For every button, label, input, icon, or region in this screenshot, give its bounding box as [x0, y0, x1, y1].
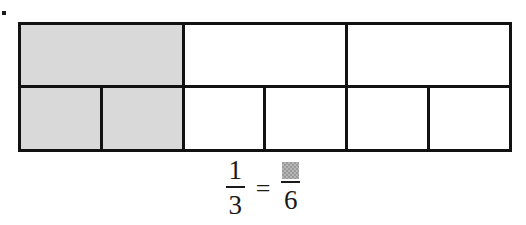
left-fraction-numerator: 1 [227, 156, 244, 185]
right-fraction-bar [281, 181, 300, 183]
fraction-equation: 1 3 = 6 [0, 156, 526, 222]
left-fraction-bar [226, 186, 245, 188]
worksheet-page: 1 3 = 6 [0, 0, 526, 225]
right-fraction: 6 [281, 162, 300, 214]
sixths-row [21, 88, 509, 149]
item-bullet-icon [2, 11, 6, 15]
answer-blank-box[interactable] [282, 162, 299, 179]
sixths-cell-4[interactable] [266, 88, 348, 149]
fraction-bar-model [18, 22, 512, 152]
sixths-cell-2[interactable] [103, 88, 185, 149]
thirds-row [21, 25, 509, 88]
thirds-cell-3[interactable] [348, 25, 509, 85]
equals-sign: = [256, 176, 271, 202]
right-fraction-denominator: 6 [282, 185, 299, 214]
sixths-cell-1[interactable] [21, 88, 103, 149]
left-fraction-denominator: 3 [227, 190, 244, 219]
sixths-cell-6[interactable] [430, 88, 509, 149]
thirds-cell-2[interactable] [185, 25, 349, 85]
thirds-cell-1[interactable] [21, 25, 185, 85]
equation-row: 1 3 = 6 [226, 156, 301, 220]
sixths-cell-3[interactable] [185, 88, 267, 149]
sixths-cell-5[interactable] [348, 88, 430, 149]
left-fraction: 1 3 [226, 156, 245, 220]
